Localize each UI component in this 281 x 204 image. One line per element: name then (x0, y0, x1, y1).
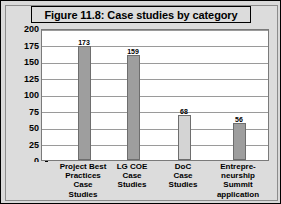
gridline (42, 79, 268, 80)
bar (78, 46, 91, 160)
gridline (42, 46, 268, 47)
y-axis-tick-label: 100 (11, 91, 39, 100)
y-axis-tick-label: 50 (11, 124, 39, 133)
y-axis-tick-label: 75 (11, 107, 39, 116)
y-axis-tick-label: 200 (11, 25, 39, 34)
y-axis-tick-label: 25 (11, 140, 39, 149)
y-axis-tick-label: 175 (11, 41, 39, 50)
gridline (42, 30, 268, 31)
bar-value-label: 159 (118, 48, 148, 55)
gridline (42, 63, 268, 64)
gridline (42, 96, 268, 97)
category-label-line: Summit (206, 180, 270, 189)
plot-area: 1731596856 (41, 29, 269, 161)
category-label-line: Entrepre- (206, 162, 270, 171)
category-label-band: Project BestPracticesCaseStudiesLG COECa… (6, 162, 277, 200)
page-title: Figure 11.8: Case studies by category (44, 9, 237, 21)
y-axis-tick-labels: 0255075100125150175200 (7, 29, 39, 161)
category-label-line: neurship (206, 171, 270, 180)
bar (233, 123, 246, 160)
x-axis-category-label: Entrepre-neurshipSummitapplication (206, 162, 270, 199)
bar-value-label: 173 (69, 39, 99, 46)
category-label-line: Studies (51, 190, 115, 199)
chart-title-box: Figure 11.8: Case studies by category (31, 6, 251, 23)
category-label-line: application (206, 190, 270, 199)
bar (127, 55, 140, 160)
bar-value-label: 56 (224, 116, 254, 123)
figure-container: Figure 11.8: Case studies by category 02… (0, 0, 281, 204)
bar (178, 115, 191, 160)
bar-value-label: 68 (169, 108, 199, 115)
y-axis-tick-label: 125 (11, 74, 39, 83)
gridline (42, 112, 268, 113)
y-axis-tick-label: 150 (11, 58, 39, 67)
